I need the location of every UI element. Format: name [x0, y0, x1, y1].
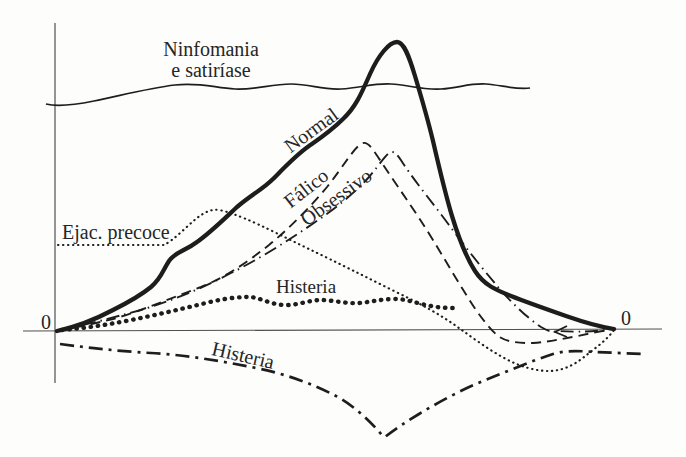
sexual-response-curves-figure: Ninfomania e satiríase Normal Fálico Obs… — [0, 0, 686, 457]
ninfomania-label-line2: e satiríase — [171, 59, 251, 81]
figure-canvas: Ninfomania e satiríase Normal Fálico Obs… — [0, 0, 686, 457]
histeria-bottom-label: Histeria — [210, 337, 277, 373]
histeria-top-curve — [62, 297, 454, 330]
ejac-precoce-label: Ejac. precoce — [62, 221, 170, 244]
histeria-top-label: Histeria — [276, 276, 337, 297]
histeria-bottom-curve — [60, 344, 643, 437]
origin-zero-left: 0 — [41, 311, 51, 333]
ninfomania-label-line1: Ninfomania — [163, 38, 259, 60]
ninfomania-threshold-line — [46, 84, 530, 106]
origin-zero-right: 0 — [621, 307, 631, 329]
